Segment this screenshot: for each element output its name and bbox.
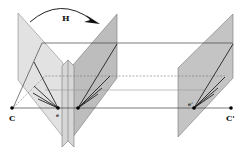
point-e-rectified: [76, 106, 80, 110]
label-h: H: [62, 13, 70, 23]
homography-arrow-arc: [30, 8, 92, 22]
label-c-prime: C': [226, 113, 235, 123]
point-e: [56, 106, 60, 110]
point-c-prime: [229, 106, 233, 110]
point-e-prime: [192, 106, 196, 110]
right-plane: [178, 14, 233, 137]
label-e-prime: e': [188, 101, 193, 107]
left-plane-dark: [73, 14, 117, 137]
point-c: [10, 106, 14, 110]
label-e: e: [56, 112, 59, 118]
label-c: C: [9, 113, 15, 123]
epipolar-diagram: H C e e' C': [0, 0, 243, 156]
